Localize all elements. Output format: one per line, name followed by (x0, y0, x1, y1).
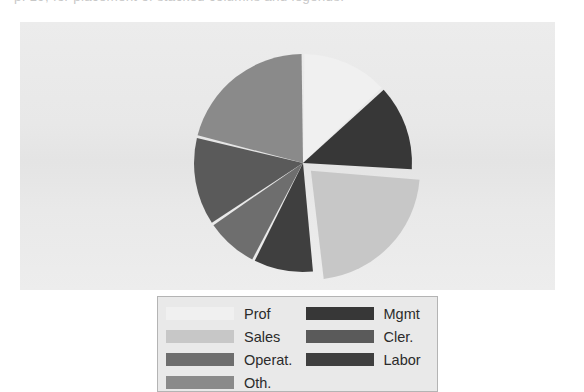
legend-item-oth[interactable]: Oth. (158, 371, 298, 392)
legend-item-sales[interactable]: Sales (158, 325, 298, 348)
legend-item-prof[interactable]: Prof (158, 302, 298, 325)
legend-label-prof: Prof (244, 306, 271, 322)
legend-item-operat[interactable]: Operat. (158, 348, 298, 371)
legend-swatch-oth (166, 376, 234, 389)
legend-swatch-labor (306, 353, 374, 366)
legend-label-cler: Cler. (384, 329, 414, 345)
legend-swatch-cler (306, 330, 374, 343)
chart-legend: ProfMgmtSalesCler.Operat.LaborOth. (157, 296, 438, 392)
legend-label-mgmt: Mgmt (384, 306, 420, 322)
legend-swatch-prof (166, 307, 234, 320)
legend-item-labor[interactable]: Labor (298, 348, 438, 371)
legend-grid: ProfMgmtSalesCler.Operat.LaborOth. (158, 297, 437, 392)
legend-label-operat: Operat. (244, 352, 292, 368)
pie-slice-sales[interactable] (311, 171, 420, 279)
legend-label-labor: Labor (384, 352, 421, 368)
legend-swatch-operat (166, 353, 234, 366)
legend-label-oth: Oth. (244, 375, 271, 391)
legend-swatch-sales (166, 330, 234, 343)
legend-label-sales: Sales (244, 329, 280, 345)
legend-swatch-mgmt (306, 307, 374, 320)
legend-item-cler[interactable]: Cler. (298, 325, 438, 348)
pie-slice-group (194, 54, 420, 279)
legend-item-mgmt[interactable]: Mgmt (298, 302, 438, 325)
legend-item-blank[interactable] (298, 371, 438, 392)
